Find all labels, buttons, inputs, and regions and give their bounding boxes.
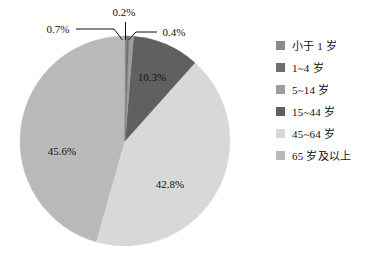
slice-label-65-and-above: 45.6% bbox=[48, 145, 76, 157]
legend-swatch-icon bbox=[276, 85, 285, 94]
legend-item-label: 小于 1 岁 bbox=[292, 37, 337, 53]
pie-chart-figure: 10.3% 42.8% 45.6% 0.2% 0.7% 0.4% 小于 1 岁 … bbox=[0, 0, 372, 264]
legend-item-label: 45~64 岁 bbox=[292, 125, 335, 141]
legend-swatch-icon bbox=[276, 107, 285, 116]
legend-item-label: 15~44 岁 bbox=[292, 103, 335, 119]
legend-item-1-4: 1~4 岁 bbox=[276, 56, 372, 78]
callout-label-5-14: 0.7% bbox=[47, 23, 70, 35]
legend-item-65-and-above: 65 岁及以上 bbox=[276, 144, 372, 166]
legend-item-45-64: 45~64 岁 bbox=[276, 122, 372, 144]
callout-value-labels: 0.2% 0.7% 0.4% bbox=[47, 6, 186, 38]
legend-item-under-1: 小于 1 岁 bbox=[276, 34, 372, 56]
callout-label-under-1: 0.2% bbox=[113, 6, 136, 18]
legend-swatch-icon bbox=[276, 63, 285, 72]
legend-item-5-14: 5~14 岁 bbox=[276, 78, 372, 100]
slice-label-45-64: 42.8% bbox=[156, 178, 184, 190]
legend-item-label: 5~14 岁 bbox=[292, 81, 329, 97]
legend-swatch-icon bbox=[276, 41, 285, 50]
legend-item-label: 65 岁及以上 bbox=[292, 147, 351, 163]
legend-swatch-icon bbox=[276, 129, 285, 138]
chart-legend: 小于 1 岁 1~4 岁 5~14 岁 15~44 岁 45~64 岁 65 岁… bbox=[276, 34, 372, 166]
slice-label-15-44: 10.3% bbox=[138, 71, 166, 83]
legend-item-15-44: 15~44 岁 bbox=[276, 100, 372, 122]
callout-label-1-4: 0.4% bbox=[163, 26, 186, 38]
legend-item-label: 1~4 岁 bbox=[292, 59, 324, 75]
pie-slices bbox=[20, 36, 230, 246]
legend-swatch-icon bbox=[276, 151, 285, 160]
